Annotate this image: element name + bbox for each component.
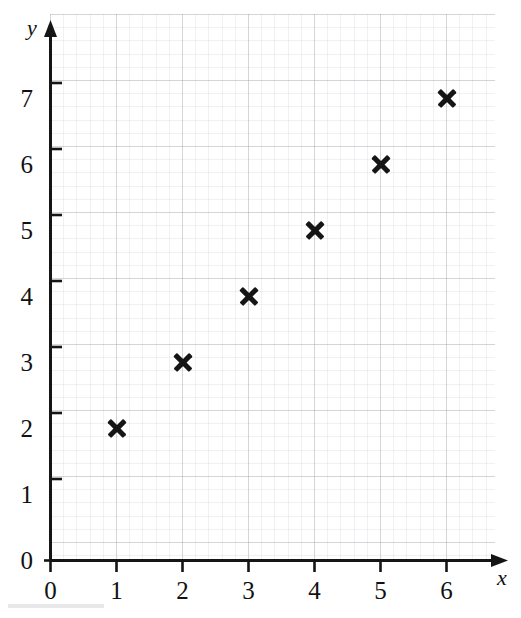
x-axis-ticks <box>51 561 447 573</box>
data-point-marker <box>104 416 130 442</box>
y-tick-label-6: 6 <box>3 152 33 177</box>
data-point-marker <box>368 152 394 178</box>
data-point-marker <box>236 284 262 310</box>
graph-paper-grid <box>50 14 495 560</box>
y-tick-label-7: 7 <box>3 86 33 111</box>
y-tick-label-4: 4 <box>3 284 33 309</box>
x-tick-label-6: 6 <box>432 578 462 603</box>
scatter-plot-figure: y x 0 1 2 3 4 5 6 7 0 1 2 3 4 5 6 <box>0 0 521 618</box>
x-tick-label-2: 2 <box>168 578 198 603</box>
y-axis-label: y <box>27 17 37 39</box>
x-tick-label-3: 3 <box>234 578 264 603</box>
x-tick-label-5: 5 <box>366 578 396 603</box>
y-tick-label-0: 0 <box>3 548 33 573</box>
data-point-marker <box>170 350 196 376</box>
y-tick-label-5: 5 <box>3 218 33 243</box>
data-point-marker <box>434 86 460 112</box>
x-tick-label-1: 1 <box>102 578 132 603</box>
y-tick-label-3: 3 <box>3 350 33 375</box>
x-tick-label-4: 4 <box>300 578 330 603</box>
y-tick-label-2: 2 <box>3 416 33 441</box>
scan-artifact <box>8 604 104 608</box>
x-axis-label: x <box>497 567 507 589</box>
y-tick-label-1: 1 <box>3 482 33 507</box>
data-point-marker <box>302 218 328 244</box>
x-tick-label-0: 0 <box>36 578 66 603</box>
